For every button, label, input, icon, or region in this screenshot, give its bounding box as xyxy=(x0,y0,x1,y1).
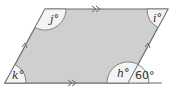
angle-i-label: i° xyxy=(153,12,162,25)
angle-60-label: 60° xyxy=(135,69,155,82)
angle-k-label: k° xyxy=(12,69,24,82)
parallelogram-diagram: j° i° k° h° 60° xyxy=(0,0,179,91)
angle-h-label: h° xyxy=(117,67,130,80)
